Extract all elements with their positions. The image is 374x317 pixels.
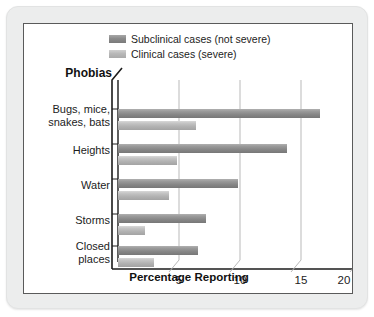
x-axis-title: Percentage Reporting <box>24 271 353 283</box>
bar-water-clinical <box>118 191 169 200</box>
figure-plot-frame: Subclinical cases (not severe) Clinical … <box>23 23 353 294</box>
bar-closed-places-subclinical <box>118 246 198 255</box>
category-label-water-line1: Water <box>24 179 110 192</box>
category-label-bugs-line1: Bugs, mice, <box>24 103 110 116</box>
category-label-storms-line1: Storms <box>24 214 110 227</box>
bar-heights-clinical <box>118 156 177 165</box>
category-label-bugs: Bugs, mice, snakes, bats <box>24 103 110 128</box>
figure-card: Subclinical cases (not severe) Clinical … <box>6 6 368 309</box>
category-label-heights: Heights <box>24 144 110 157</box>
category-label-water: Water <box>24 179 110 192</box>
bar-storms-clinical <box>118 226 145 235</box>
y-axis-line <box>112 68 122 269</box>
category-label-heights-line1: Heights <box>24 144 110 157</box>
category-label-closed-places: Closed places <box>24 240 110 265</box>
bar-bugs-mice-snakes-bats-clinical <box>118 121 196 130</box>
bar-bugs-mice-snakes-bats-subclinical <box>118 109 320 118</box>
category-label-bugs-line2: snakes, bats <box>24 116 110 129</box>
y-axis-title: Phobias <box>44 66 112 80</box>
bar-storms-subclinical <box>118 214 206 223</box>
category-label-closed-places-line2: places <box>24 253 110 266</box>
bar-water-subclinical <box>118 179 238 188</box>
category-label-storms: Storms <box>24 214 110 227</box>
category-label-closed-places-line1: Closed <box>24 240 110 253</box>
bar-heights-subclinical <box>118 144 287 153</box>
bar-closed-places-clinical <box>118 258 154 267</box>
